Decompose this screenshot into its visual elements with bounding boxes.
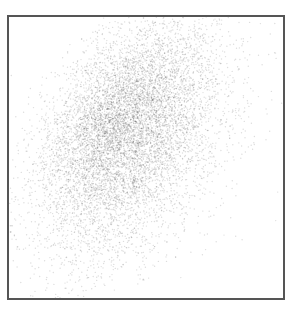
plot-area [7, 15, 285, 300]
scatter-density [9, 17, 283, 298]
